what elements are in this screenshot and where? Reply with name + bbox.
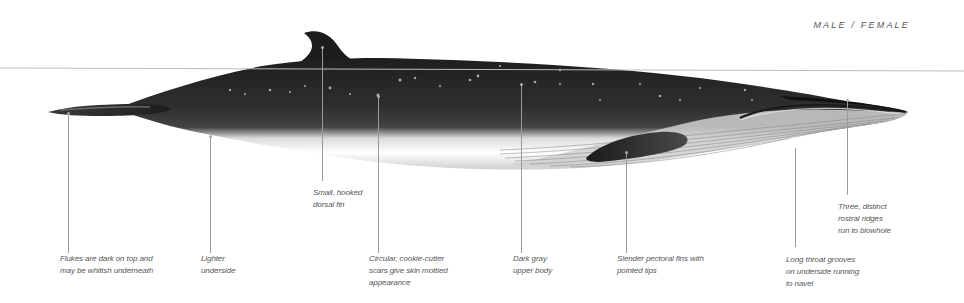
gender-label: MALE / FEMALE: [813, 20, 910, 30]
rostral-ridges-leader-dot: [846, 99, 849, 102]
callout-throat-grooves: Long throat grooves on underside running…: [786, 254, 859, 290]
flukes-leader-line: [68, 113, 69, 253]
underside-leader-line: [210, 136, 211, 253]
upper-body-leader-dot: [520, 83, 523, 86]
dorsal-fin-leader-line: [322, 47, 323, 181]
callout-dorsal-fin: Small, hooked dorsal fin: [313, 187, 362, 211]
callout-flukes: Flukes are dark on top and may be whitis…: [60, 253, 153, 277]
pectoral-fins-leader-dot: [625, 151, 628, 154]
callout-scars: Circular, cookie-cutter scars give skin …: [369, 253, 448, 289]
pectoral-fins-leader-line: [626, 152, 627, 253]
scars-leader-dot: [377, 95, 380, 98]
whale-diagram: MALE / FEMALE Flukes are dark on top and…: [0, 0, 964, 303]
callout-rostral-ridges: Three, distinct rostral ridges run to bl…: [838, 201, 891, 237]
callout-pectoral-fins: Slender pectoral fins with pointed tips: [617, 253, 704, 277]
rostral-ridges-leader-line: [847, 100, 848, 195]
callout-upper-body: Dark gray upper body: [513, 253, 552, 277]
flukes-leader-dot: [67, 112, 70, 115]
dorsal-fin-leader-dot: [321, 46, 324, 49]
dorsal-fin: [300, 31, 352, 62]
callout-underside: Lighter underside: [201, 253, 235, 277]
throat-grooves-leader-line: [795, 148, 796, 247]
scars-leader-line: [378, 96, 379, 253]
underside-leader-dot: [209, 135, 212, 138]
upper-body-leader-line: [521, 84, 522, 253]
